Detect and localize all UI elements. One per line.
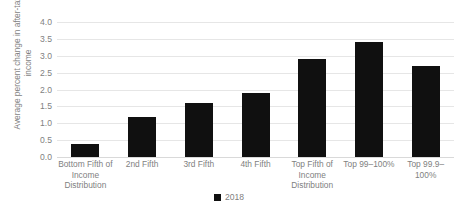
y-axis-tick-label: 2.0	[40, 85, 52, 95]
x-axis-category-label: Top Fifth of Income Distribution	[284, 159, 341, 191]
gridline: 0.0	[57, 157, 454, 158]
bar[interactable]	[355, 42, 383, 157]
bar[interactable]	[242, 93, 270, 157]
x-axis-category-label: Top 99.9–100%	[397, 159, 454, 191]
y-axis-tick-label: 4.0	[40, 17, 52, 27]
bar-slot	[227, 22, 284, 157]
y-axis-title: Average percent change in after-tax inco…	[12, 0, 34, 138]
bar-slot	[114, 22, 171, 157]
bar[interactable]	[71, 144, 99, 158]
x-axis-category-labels: Bottom Fifth of Income Distribution2nd F…	[57, 159, 454, 191]
bar-slot	[57, 22, 114, 157]
x-axis-category-label: 2nd Fifth	[114, 159, 171, 191]
bar-slot	[397, 22, 454, 157]
bars-layer	[57, 22, 454, 157]
x-axis-category-label: 4th Fifth	[227, 159, 284, 191]
x-axis-category-label: Top 99–100%	[341, 159, 398, 191]
y-axis-tick-label: 0.0	[40, 152, 52, 162]
x-axis-category-label: 3rd Fifth	[170, 159, 227, 191]
bar[interactable]	[298, 59, 326, 157]
chart-legend: 2018	[0, 192, 458, 202]
bar-chart: Average percent change in after-tax inco…	[0, 0, 458, 215]
bar[interactable]	[128, 117, 156, 158]
plot-area: 0.00.51.01.52.02.53.03.54.0	[57, 22, 454, 157]
bar-slot	[341, 22, 398, 157]
x-axis-category-label: Bottom Fifth of Income Distribution	[57, 159, 114, 191]
y-axis-tick-label: 1.5	[40, 101, 52, 111]
legend-swatch-icon	[214, 194, 221, 201]
y-axis-tick-label: 3.5	[40, 34, 52, 44]
y-axis-tick-label: 0.5	[40, 135, 52, 145]
bar-slot	[284, 22, 341, 157]
bar-slot	[170, 22, 227, 157]
bar[interactable]	[185, 103, 213, 157]
bar[interactable]	[412, 66, 440, 157]
y-axis-tick-label: 3.0	[40, 51, 52, 61]
y-axis-tick-label: 2.5	[40, 68, 52, 78]
legend-label-2018: 2018	[225, 192, 244, 202]
y-axis-tick-label: 1.0	[40, 118, 52, 128]
